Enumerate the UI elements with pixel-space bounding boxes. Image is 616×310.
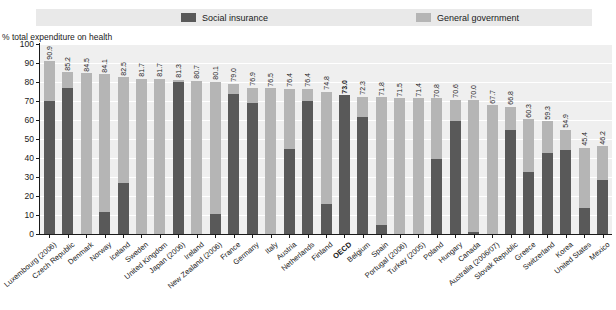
bar-column[interactable]: 46.2: [597, 44, 608, 234]
bar-segment-general-government: [450, 100, 461, 121]
x-axis-tick-mark: [344, 235, 345, 238]
x-axis-tick-mark: [160, 235, 161, 238]
bar-value-label: 70.6: [450, 84, 461, 98]
bar-segment-social-insurance: [99, 212, 110, 234]
bar-segment-general-government: [173, 80, 184, 83]
bar-value-label: 71.5: [394, 83, 405, 97]
bar-value-label: 80.7: [191, 65, 202, 79]
bar-segment-social-insurance: [228, 94, 239, 234]
x-axis-tick-mark: [49, 235, 50, 238]
y-axis-tick-label: 90: [0, 59, 34, 68]
bar-segment-general-government: [210, 82, 221, 214]
bar-segment-social-insurance: [542, 153, 553, 234]
x-axis-tick-mark: [123, 235, 124, 238]
bar-column[interactable]: 70.8: [431, 44, 442, 234]
x-axis-tick-mark: [418, 235, 419, 238]
bar-value-label: 59.3: [542, 106, 553, 120]
bar-segment-social-insurance: [62, 88, 73, 234]
bar-value-label: 70.0: [468, 85, 479, 99]
bar-segment-social-insurance: [210, 214, 221, 234]
bar-column[interactable]: 82.5: [118, 44, 129, 234]
bar-column[interactable]: 81.7: [154, 44, 165, 234]
x-axis-tick-mark: [215, 235, 216, 238]
bar-segment-general-government: [413, 98, 424, 234]
y-axis-tick-label: 30: [0, 173, 34, 182]
bar-value-label: 84.1: [99, 59, 110, 73]
bar-column[interactable]: 76.9: [247, 44, 258, 234]
y-axis-tick-label: 60: [0, 116, 34, 125]
bar-segment-social-insurance: [523, 172, 534, 234]
bar-column[interactable]: 85.2: [62, 44, 73, 234]
chart-legend: Social insurance General government: [36, 9, 592, 26]
legend-swatch-social-insurance: [181, 13, 196, 22]
bar-column[interactable]: 90.9: [44, 44, 55, 234]
bar-segment-social-insurance: [247, 103, 258, 234]
bar-segment-general-government: [247, 88, 258, 104]
y-axis-tick-label: 70: [0, 97, 34, 106]
bar-segment-general-government: [118, 77, 129, 183]
bar-column[interactable]: 81.3: [173, 44, 184, 234]
bar-segment-social-insurance: [321, 204, 332, 234]
x-axis-tick-mark: [141, 235, 142, 238]
bar-column[interactable]: 60.3: [523, 44, 534, 234]
bar-value-label: 46.2: [597, 131, 608, 145]
bar-segment-social-insurance: [579, 208, 590, 234]
bar-segment-general-government: [579, 148, 590, 208]
bar-column[interactable]: 71.4: [413, 44, 424, 234]
bar-value-label: 76.4: [284, 73, 295, 87]
bar-column[interactable]: 81.7: [136, 44, 147, 234]
bar-value-label: 74.8: [321, 76, 332, 90]
x-axis-tick-mark: [529, 235, 530, 238]
bar-column[interactable]: 76.4: [302, 44, 313, 234]
bar-value-label: 81.7: [136, 63, 147, 77]
bar-value-label: 71.8: [376, 82, 387, 96]
bar-segment-general-government: [62, 72, 73, 88]
bar-segment-general-government: [357, 97, 368, 117]
bar-column[interactable]: 79.0: [228, 44, 239, 234]
bar-segment-social-insurance: [450, 121, 461, 234]
bar-column[interactable]: 71.5: [394, 44, 405, 234]
bar-column[interactable]: 84.5: [81, 44, 92, 234]
bar-value-label: 81.3: [173, 64, 184, 78]
chart-root: Social insurance General government % to…: [0, 0, 616, 310]
bar-column[interactable]: 66.8: [505, 44, 516, 234]
bar-value-label: 82.5: [118, 62, 129, 76]
bar-column[interactable]: 80.1: [210, 44, 221, 234]
x-axis-tick-mark: [511, 235, 512, 238]
bar-segment-general-government: [154, 79, 165, 234]
bar-column[interactable]: 73.0: [339, 44, 350, 234]
bar-column[interactable]: 76.4: [284, 44, 295, 234]
bar-value-label: 84.5: [81, 58, 92, 72]
bar-value-label: 73.0: [339, 80, 350, 94]
bar-column[interactable]: 54.9: [560, 44, 571, 234]
bar-column[interactable]: 72.3: [357, 44, 368, 234]
legend-label-social-insurance: Social insurance: [202, 13, 268, 23]
bar-column[interactable]: 59.3: [542, 44, 553, 234]
bar-column[interactable]: 45.4: [579, 44, 590, 234]
bar-column[interactable]: 76.5: [265, 44, 276, 234]
bar-segment-general-government: [81, 73, 92, 234]
x-axis-tick-mark: [178, 235, 179, 238]
bar-column[interactable]: 71.8: [376, 44, 387, 234]
y-axis-tick-label: 0: [0, 230, 34, 239]
bar-column[interactable]: 70.0: [468, 44, 479, 234]
bar-column[interactable]: 67.7: [487, 44, 498, 234]
y-axis-tick-label: 80: [0, 78, 34, 87]
bar-value-label: 85.2: [62, 57, 73, 71]
y-axis-tick-label: 10: [0, 211, 34, 220]
bar-column[interactable]: 80.7: [191, 44, 202, 234]
bar-segment-social-insurance: [376, 225, 387, 234]
bar-value-label: 79.0: [228, 68, 239, 82]
x-axis-tick-mark: [68, 235, 69, 238]
legend-label-general-government: General government: [437, 13, 519, 23]
bar-value-label: 71.4: [413, 83, 424, 97]
x-axis-tick-mark: [105, 235, 106, 238]
bar-value-label: 45.4: [579, 132, 590, 146]
bar-segment-general-government: [228, 84, 239, 94]
bar-segment-general-government: [542, 121, 553, 153]
bar-value-label: 76.5: [265, 73, 276, 87]
bar-column[interactable]: 70.6: [450, 44, 461, 234]
bar-column[interactable]: 84.1: [99, 44, 110, 234]
x-axis-tick-mark: [492, 235, 493, 238]
bar-column[interactable]: 74.8: [321, 44, 332, 234]
